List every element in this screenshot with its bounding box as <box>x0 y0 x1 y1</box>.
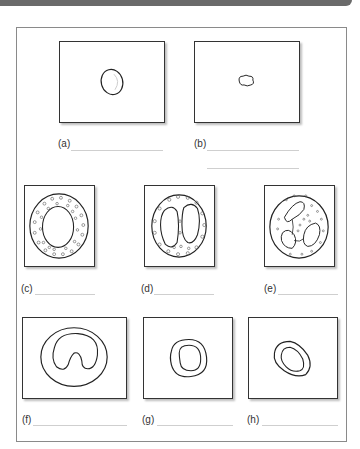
panel-g-answer-line[interactable] <box>157 425 233 426</box>
panel-c-image <box>24 185 95 267</box>
panel-h-label: (h) <box>247 414 259 426</box>
panel-b-answer-line[interactable] <box>207 150 299 151</box>
kidney-nucleus-cell-icon <box>23 318 126 398</box>
panel-d-answer-line[interactable] <box>154 294 214 295</box>
large-nucleus-cell-icon <box>144 318 232 398</box>
small-round-cell-icon <box>60 42 164 122</box>
panel-c-answer-line[interactable] <box>35 294 95 295</box>
panel-b-label: (b) <box>194 138 206 150</box>
granular-cell-icon <box>25 186 94 266</box>
panel-e-label: (e) <box>264 283 276 295</box>
panel-f-answer-line[interactable] <box>33 425 127 426</box>
panel-c-label: (c) <box>21 283 33 295</box>
panel-f-image <box>22 317 127 399</box>
panel-b-answer-line-2[interactable] <box>207 168 299 169</box>
panel-d-label: (d) <box>141 283 153 295</box>
panel-h-image <box>248 317 338 399</box>
panel-d-image <box>144 185 215 267</box>
panel-g-label: (g) <box>142 414 154 426</box>
panel-a-label: (a) <box>58 138 70 150</box>
oval-nucleus-cell-icon <box>249 318 337 398</box>
multilobed-cell-icon <box>265 186 334 266</box>
panel-g-image <box>143 317 233 399</box>
panel-h-answer-line[interactable] <box>262 425 338 426</box>
top-banner <box>0 0 352 6</box>
panel-a-image <box>59 41 165 123</box>
platelet-icon <box>195 42 299 122</box>
panel-e-answer-line[interactable] <box>278 294 338 295</box>
panel-f-label: (f) <box>22 414 31 426</box>
panel-a-answer-line[interactable] <box>71 150 163 151</box>
panel-e-image <box>264 185 335 267</box>
panel-b-image <box>194 41 300 123</box>
bilobed-cell-icon <box>145 186 214 266</box>
